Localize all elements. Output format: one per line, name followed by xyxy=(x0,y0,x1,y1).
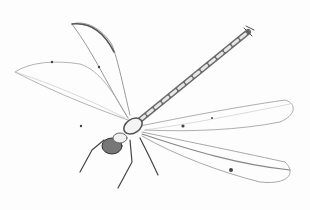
dragonfly-illustration xyxy=(0,0,310,210)
wing-upper-left xyxy=(72,23,130,118)
sketch-canvas: Pencil sketch of a dragonfly xyxy=(0,0,310,210)
wing-right-lower xyxy=(142,132,290,183)
